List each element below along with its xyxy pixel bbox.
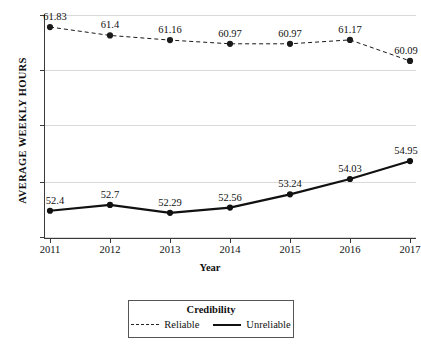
legend-label-unreliable: Unreliable [246, 319, 290, 331]
x-axis-tick-label: 2011 [40, 244, 61, 255]
data-point [167, 210, 173, 216]
legend-label-reliable: Reliable [164, 319, 199, 331]
data-point [47, 24, 53, 30]
data-point [407, 58, 413, 64]
data-point [47, 208, 53, 214]
x-axis-title: Year [0, 262, 420, 273]
data-point [347, 37, 353, 43]
x-axis-tick-label: 2014 [220, 244, 241, 255]
legend-box: Credibility Reliable Unreliable [128, 300, 294, 338]
x-axis-tick-labels: 2011201220132014201520162017 [44, 244, 416, 260]
x-axis-tick-label: 2013 [160, 244, 181, 255]
data-label: 60.97 [278, 28, 302, 39]
x-axis-tick [50, 239, 51, 243]
y-axis-title: AVERAGE WEEKLY HOURS [17, 31, 28, 231]
data-label: 52.7 [101, 189, 119, 200]
plot-area: 61.8361.461.1660.9760.9761.1760.0952.452… [44, 14, 416, 238]
x-axis-tick-label: 2015 [280, 244, 301, 255]
x-axis-tick-label: 2016 [340, 244, 361, 255]
series-lines [44, 14, 416, 238]
data-label: 61.16 [158, 24, 182, 35]
legend-items: Reliable Unreliable [129, 319, 293, 331]
data-point [107, 32, 113, 38]
data-point [227, 205, 233, 211]
data-point [347, 176, 353, 182]
data-label: 61.83 [43, 11, 67, 22]
data-label: 60.09 [394, 45, 418, 56]
data-point [407, 158, 413, 164]
x-axis-tick-label: 2012 [100, 244, 121, 255]
data-label: 61.17 [338, 24, 362, 35]
data-point [107, 202, 113, 208]
data-label: 54.95 [394, 145, 418, 156]
x-axis-tick [110, 239, 111, 243]
data-label: 52.29 [158, 197, 182, 208]
data-label: 53.24 [278, 178, 302, 189]
legend-title: Credibility [129, 304, 293, 316]
data-point [227, 41, 233, 47]
x-axis-tick [230, 239, 231, 243]
x-axis-tick [290, 239, 291, 243]
data-point [287, 191, 293, 197]
data-label: 52.4 [46, 195, 64, 206]
legend-item-unreliable[interactable]: Unreliable [213, 319, 290, 331]
data-label: 54.03 [338, 163, 362, 174]
x-axis-tick-label: 2017 [400, 244, 421, 255]
data-label: 52.56 [218, 192, 242, 203]
dashed-line-icon [131, 321, 159, 329]
x-axis-tick [170, 239, 171, 243]
data-point [167, 37, 173, 43]
x-axis-tick [350, 239, 351, 243]
legend-item-reliable[interactable]: Reliable [131, 319, 199, 331]
data-point [287, 41, 293, 47]
x-axis-tick [410, 239, 411, 243]
data-label: 61.4 [101, 19, 119, 30]
solid-line-icon [213, 321, 241, 329]
data-label: 60.97 [218, 28, 242, 39]
